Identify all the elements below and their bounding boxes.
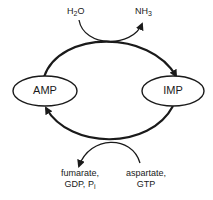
gtp-line2: GTP	[118, 179, 174, 190]
fumarate-label: fumarate, GDP, Pi	[52, 168, 108, 190]
fumarate-line2: GDP, Pi	[52, 179, 108, 190]
fumarate-line1: fumarate,	[52, 168, 108, 179]
aspartate-line1: aspartate,	[118, 168, 174, 179]
amp-node: AMP	[13, 85, 77, 96]
arrow-amp-to-imp	[44, 42, 176, 77]
h2o-tail: O	[77, 6, 84, 16]
nh3-sub: 3	[148, 10, 152, 17]
arrow-h2o-to-nh3	[79, 20, 142, 42]
arrow-aspartate-to-fumarate	[79, 142, 140, 166]
nh3-base: NH	[135, 6, 148, 16]
pi-sub: i	[94, 183, 96, 190]
aspartate-label: aspartate, GTP	[118, 168, 174, 190]
gdp-pi-text: GDP, P	[65, 179, 94, 189]
nh3-label: NH3	[135, 6, 152, 17]
diagram-canvas: AMP IMP H2O NH3 fumarate, GDP, Pi aspart…	[0, 0, 213, 200]
imp-node: IMP	[142, 85, 204, 96]
h2o-label: H2O	[67, 6, 84, 17]
arrow-imp-to-amp	[46, 106, 173, 139]
